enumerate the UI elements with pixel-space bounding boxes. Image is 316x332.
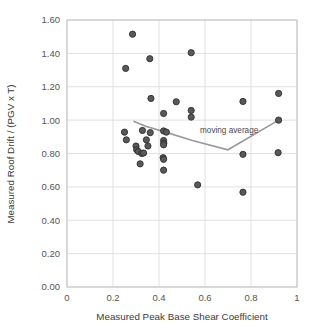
data-point xyxy=(195,182,201,188)
data-point xyxy=(123,65,129,71)
data-point xyxy=(276,90,282,96)
data-point xyxy=(276,117,282,123)
y-tick-label: 1.40 xyxy=(42,48,61,59)
y-tick-label: 0.00 xyxy=(42,281,61,292)
data-point xyxy=(173,99,179,105)
data-point xyxy=(121,129,127,135)
y-tick-label: 1.20 xyxy=(42,81,61,92)
moving-average-text: moving average xyxy=(200,126,259,135)
data-point xyxy=(148,95,154,101)
x-tick-label: 0.4 xyxy=(152,292,165,303)
x-axis-title: Measured Peak Base Shear Coefficient xyxy=(96,311,268,322)
data-point xyxy=(140,150,146,156)
y-tick-label: 1.60 xyxy=(42,14,61,25)
chart-canvas: 0.000.200.400.600.801.001.201.401.60 00.… xyxy=(0,0,316,332)
data-point xyxy=(161,110,167,116)
data-point xyxy=(137,161,143,167)
data-point xyxy=(240,151,246,157)
scatter-chart: 0.000.200.400.600.801.001.201.401.60 00.… xyxy=(0,0,316,332)
x-tick-label: 1 xyxy=(294,292,299,303)
y-axis-title: Measured Roof Drift / (PGV x T) xyxy=(5,84,16,223)
y-axis-tick-labels: 0.000.200.400.600.801.001.201.401.60 xyxy=(42,14,61,292)
x-tick-label: 0.6 xyxy=(198,292,211,303)
y-tick-label: 0.80 xyxy=(42,148,61,159)
data-point xyxy=(161,167,167,173)
data-point xyxy=(275,150,281,156)
data-point xyxy=(161,156,167,162)
data-point xyxy=(163,129,169,135)
data-point xyxy=(139,127,145,133)
moving-average-label: moving average xyxy=(200,126,259,135)
y-tick-label: 0.60 xyxy=(42,181,61,192)
data-point xyxy=(123,137,129,143)
x-tick-label: 0.2 xyxy=(106,292,119,303)
data-point xyxy=(143,137,149,143)
data-point xyxy=(147,56,153,62)
data-point xyxy=(188,50,194,56)
data-point xyxy=(145,143,151,149)
data-point xyxy=(240,189,246,195)
y-tick-label: 0.40 xyxy=(42,215,61,226)
y-tick-label: 0.20 xyxy=(42,248,61,259)
data-point xyxy=(161,142,167,148)
x-tick-label: 0 xyxy=(64,292,69,303)
data-point xyxy=(240,98,246,104)
data-point xyxy=(129,31,135,37)
x-tick-label: 0.8 xyxy=(244,292,257,303)
y-tick-label: 1.00 xyxy=(42,115,61,126)
data-point xyxy=(188,107,194,113)
data-point xyxy=(188,114,194,120)
data-point xyxy=(147,130,153,136)
